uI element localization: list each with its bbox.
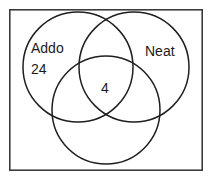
left-circle-label: Addo: [31, 40, 64, 56]
right-circle-label: Neat: [145, 43, 175, 59]
venn-circle-right: [79, 12, 189, 122]
venn-circle-bottom: [52, 56, 160, 164]
left-only-count: 24: [31, 61, 47, 77]
venn-diagram: Addo 24 Neat 4: [0, 0, 211, 177]
venn-diagram-canvas: Addo 24 Neat 4: [0, 0, 211, 177]
center-intersection-count: 4: [101, 80, 109, 96]
